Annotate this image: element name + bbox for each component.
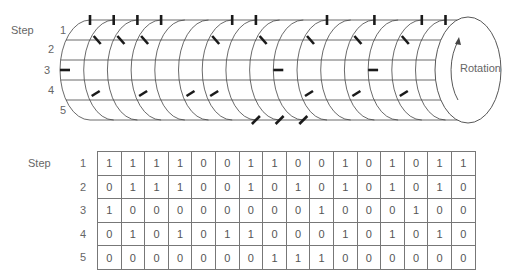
table-cell: 0 bbox=[121, 246, 145, 270]
pin-mark bbox=[400, 91, 408, 96]
table-cell: 0 bbox=[215, 246, 239, 270]
disk-arc bbox=[155, 20, 185, 120]
table-step-label: Step bbox=[28, 157, 51, 169]
table-cell: 1 bbox=[333, 152, 357, 176]
table-cell: 1 bbox=[428, 152, 452, 176]
disk-arc bbox=[297, 20, 327, 120]
table-row-label: 3 bbox=[80, 204, 86, 216]
table-row: 1111001100101011 bbox=[98, 152, 476, 176]
table-cell: 1 bbox=[333, 222, 357, 246]
table-cell: 1 bbox=[286, 246, 310, 270]
table-cell: 0 bbox=[192, 199, 216, 223]
table-cell: 0 bbox=[357, 246, 381, 270]
table-row: 1000000001000100 bbox=[98, 199, 476, 223]
table-row-label: 4 bbox=[80, 228, 86, 240]
table-cell: 0 bbox=[451, 222, 475, 246]
table-cell: 0 bbox=[286, 199, 310, 223]
disk-arc bbox=[179, 20, 209, 120]
table-cell: 0 bbox=[215, 152, 239, 176]
table-cell: 0 bbox=[286, 222, 310, 246]
table-cell: 0 bbox=[192, 152, 216, 176]
table-row: 0000000111000000 bbox=[98, 246, 476, 270]
table-cell: 0 bbox=[310, 152, 334, 176]
table-cell: 0 bbox=[357, 199, 381, 223]
table-cell: 0 bbox=[404, 222, 428, 246]
table-cell: 0 bbox=[145, 199, 169, 223]
table-cell: 0 bbox=[451, 246, 475, 270]
rotation-label: Rotation bbox=[460, 62, 501, 74]
table-cell: 0 bbox=[381, 246, 405, 270]
cylinder-row-label-2: 2 bbox=[48, 43, 54, 55]
table-cell: 1 bbox=[239, 175, 263, 199]
cylinder-row-label-3: 3 bbox=[44, 64, 50, 76]
table-cell: 0 bbox=[168, 199, 192, 223]
table-cell: 1 bbox=[239, 152, 263, 176]
table-cell: 0 bbox=[381, 199, 405, 223]
table-cell: 1 bbox=[310, 246, 334, 270]
table-cell: 1 bbox=[263, 152, 287, 176]
table-cell: 0 bbox=[428, 246, 452, 270]
table-cell: 0 bbox=[357, 175, 381, 199]
pin-mark bbox=[139, 91, 147, 96]
table-cell: 1 bbox=[145, 175, 169, 199]
cylinder-row-label-4: 4 bbox=[48, 84, 54, 96]
table-cell: 0 bbox=[404, 246, 428, 270]
table-cell: 0 bbox=[98, 246, 122, 270]
table-cell: 0 bbox=[451, 199, 475, 223]
table-cell: 0 bbox=[357, 222, 381, 246]
table-cell: 0 bbox=[428, 199, 452, 223]
table-cell: 0 bbox=[192, 246, 216, 270]
disk-arc bbox=[202, 20, 232, 120]
table-cell: 1 bbox=[168, 152, 192, 176]
pin-mark bbox=[352, 91, 360, 96]
table-cell: 1 bbox=[239, 222, 263, 246]
table-row-label: 5 bbox=[80, 251, 86, 263]
table-cell: 1 bbox=[98, 152, 122, 176]
table-cell: 1 bbox=[145, 152, 169, 176]
table-cell: 1 bbox=[263, 246, 287, 270]
table-cell: 0 bbox=[310, 222, 334, 246]
table-cell: 0 bbox=[98, 222, 122, 246]
cylinder-row-label-5: 5 bbox=[60, 104, 66, 116]
table-cell: 0 bbox=[404, 175, 428, 199]
table-cell: 0 bbox=[263, 175, 287, 199]
table-cell: 1 bbox=[428, 175, 452, 199]
step-table: 1111001100101011011100101010101010000000… bbox=[97, 151, 476, 270]
table-cell: 1 bbox=[428, 222, 452, 246]
disk-arc bbox=[321, 20, 351, 120]
table-cell: 1 bbox=[333, 175, 357, 199]
table-cell: 1 bbox=[168, 222, 192, 246]
table-cell: 0 bbox=[451, 175, 475, 199]
table-cell: 1 bbox=[121, 222, 145, 246]
table-cell: 1 bbox=[381, 222, 405, 246]
cylinder-row-label-1: 1 bbox=[60, 24, 66, 36]
table-cell: 0 bbox=[263, 222, 287, 246]
table-cell: 0 bbox=[145, 222, 169, 246]
table-cell: 0 bbox=[215, 199, 239, 223]
table-cell: 1 bbox=[381, 152, 405, 176]
disk-arc bbox=[392, 20, 422, 120]
pin-mark bbox=[305, 91, 313, 96]
table-row: 0111001010101010 bbox=[98, 175, 476, 199]
cylinder-step-label: Step bbox=[11, 24, 34, 36]
table-row: 0101011000101010 bbox=[98, 222, 476, 246]
table-cell: 1 bbox=[121, 152, 145, 176]
table-cell: 1 bbox=[381, 175, 405, 199]
pin-mark bbox=[92, 91, 100, 96]
table-cell: 1 bbox=[121, 175, 145, 199]
table-cell: 0 bbox=[263, 199, 287, 223]
table-cell: 1 bbox=[98, 199, 122, 223]
table-cell: 0 bbox=[239, 246, 263, 270]
table-cell: 0 bbox=[168, 246, 192, 270]
disk-arc bbox=[226, 20, 256, 120]
table-row-label: 2 bbox=[80, 181, 86, 193]
table-cell: 0 bbox=[121, 199, 145, 223]
pin-cylinder-diagram bbox=[0, 0, 512, 140]
table-cell: 0 bbox=[286, 152, 310, 176]
table-cell: 0 bbox=[98, 175, 122, 199]
table-cell: 1 bbox=[310, 199, 334, 223]
table-cell: 0 bbox=[215, 175, 239, 199]
table-cell: 0 bbox=[239, 199, 263, 223]
table-cell: 0 bbox=[357, 152, 381, 176]
disk-arc bbox=[107, 20, 137, 120]
